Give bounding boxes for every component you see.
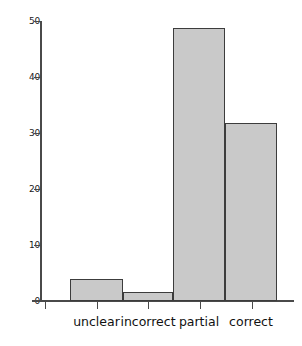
x-tick-mark-0: [45, 302, 46, 309]
bar-partial: [173, 28, 225, 301]
y-tick-mark: [34, 133, 40, 134]
plot-area: 01020304050 unclearincorrectpartialcorre…: [0, 0, 302, 346]
y-axis-line: [40, 21, 42, 302]
bar-incorrect: [123, 292, 173, 301]
x-tick-mark-4: [252, 302, 253, 309]
y-tick-40: 40: [0, 77, 40, 78]
bar-correct: [225, 123, 277, 301]
y-tick-10: 10: [0, 245, 40, 246]
x-tick-mark-1: [97, 302, 98, 309]
bar-chart: 01020304050 unclearincorrectpartialcorre…: [0, 0, 302, 346]
y-tick-50: 50: [0, 21, 40, 22]
x-axis-label-correct: correct: [229, 315, 273, 329]
x-tick-mark-3: [200, 302, 201, 309]
y-tick-20: 20: [0, 189, 40, 190]
y-tick-30: 30: [0, 133, 40, 134]
y-tick-mark: [34, 77, 40, 78]
x-tick-mark-2: [148, 302, 149, 309]
y-tick-mark: [34, 245, 40, 246]
bar-unclear: [70, 279, 123, 301]
y-tick-mark: [34, 189, 40, 190]
x-axis-label-unclear: unclear: [73, 315, 120, 329]
y-tick-mark: [34, 21, 40, 22]
x-axis-label-partial: partial: [179, 315, 219, 329]
x-axis-label-incorrect: incorrect: [120, 315, 175, 329]
